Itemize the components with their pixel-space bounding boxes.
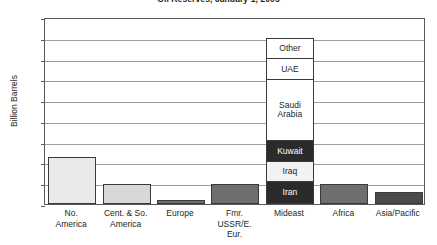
bar-africa[interactable] (320, 184, 368, 204)
bar-no-america[interactable] (48, 157, 96, 204)
x-tick-label: Mideast (262, 208, 316, 219)
x-tick-label-line: Asia/Pacific (371, 208, 425, 219)
bar-slot (154, 19, 208, 204)
x-tick-label: No.America (44, 208, 98, 229)
bar-asia-pacific[interactable] (375, 192, 423, 204)
x-tick-label-line: America (44, 219, 98, 230)
stack-segment-label: UAE (280, 65, 299, 74)
stack-segment-label: Saudi Arabia (267, 101, 313, 118)
x-tick-label-line: Europe (153, 208, 207, 219)
x-tick-label: Asia/Pacific (371, 208, 425, 219)
stack-segment-iran[interactable]: Iran (267, 182, 313, 203)
x-tick-label-line: No. (44, 208, 98, 219)
x-tick-label-line: Cent. & So. (98, 208, 152, 219)
chart-title: Oil Reserves, January 1, 2005 (0, 0, 437, 4)
plot-area: OtherUAESaudi ArabiaKuwaitIraqIran (44, 18, 425, 205)
stack-segment-iraq[interactable]: Iraq (267, 162, 313, 183)
y-tick-mark (41, 206, 45, 207)
stack-segment-label: Other (278, 44, 301, 53)
x-tick-label: Europe (153, 208, 207, 219)
bar-slot (317, 19, 371, 204)
stack-segment-label: Kuwait (276, 147, 304, 156)
stack-segment-label: Iran (282, 188, 299, 197)
bar-fmr-ussr-e-eur[interactable] (211, 184, 259, 204)
x-tick-label-line: Africa (316, 208, 370, 219)
bar-slot (372, 19, 426, 204)
x-tick-label: Cent. & So.America (98, 208, 152, 229)
stack-segment-other[interactable]: Other (267, 39, 313, 60)
x-axis-tick-labels: No.AmericaCent. & So.AmericaEuropeFmr.US… (44, 208, 425, 245)
bar-europe[interactable] (157, 200, 205, 204)
bar-group: OtherUAESaudi ArabiaKuwaitIraqIran (45, 19, 424, 204)
bar-mideast[interactable]: OtherUAESaudi ArabiaKuwaitIraqIran (266, 38, 314, 204)
stack-segment-kuwait[interactable]: Kuwait (267, 141, 313, 162)
bar-slot: OtherUAESaudi ArabiaKuwaitIraqIran (263, 19, 317, 204)
x-tick-label-line: Mideast (262, 208, 316, 219)
x-tick-label-line: USSR/E. (207, 219, 261, 230)
stack-segment-saudi-arabia[interactable]: Saudi Arabia (267, 80, 313, 142)
bar-slot (208, 19, 262, 204)
bar-cent-so-america[interactable] (103, 184, 151, 204)
x-tick-label: Africa (316, 208, 370, 219)
stack-segment-label: Iraq (282, 167, 299, 176)
x-tick-label-line: America (98, 219, 152, 230)
x-tick-label: Fmr.USSR/E.Eur. (207, 208, 261, 240)
oil-reserves-bar-chart: Oil Reserves, January 1, 2005 Billion Ba… (0, 0, 437, 245)
x-tick-label-line: Fmr. (207, 208, 261, 219)
stack-segment-uae[interactable]: UAE (267, 59, 313, 80)
bar-slot (99, 19, 153, 204)
y-axis-title: Billion Barrels (9, 51, 19, 151)
x-tick-label-line: Eur. (207, 229, 261, 240)
bar-slot (45, 19, 99, 204)
